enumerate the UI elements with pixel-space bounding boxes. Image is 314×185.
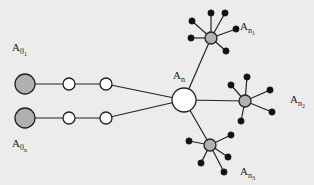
- leaf-node: [244, 74, 250, 80]
- intermediate-node: [63, 78, 75, 90]
- star-center-node: [204, 139, 216, 151]
- network-diagram: [0, 0, 314, 185]
- label-sub-subscript: 3: [252, 175, 255, 181]
- label-sub-subscript: 2: [302, 103, 305, 109]
- label-subscript: n: [181, 75, 185, 84]
- label-base: A: [290, 93, 298, 105]
- intermediate-node: [100, 112, 112, 124]
- label-subscript: 0n: [20, 143, 27, 152]
- source-node: [15, 74, 35, 94]
- label-a0n: A0n: [12, 138, 27, 153]
- label-a01: A01: [12, 42, 27, 57]
- label-base: A: [240, 20, 248, 32]
- label-subscript: 01: [20, 47, 27, 56]
- label-base: A: [240, 165, 248, 177]
- leaf-node: [267, 87, 273, 93]
- leaf-node: [186, 138, 192, 144]
- label-an2: An2: [290, 94, 305, 109]
- leaf-node: [189, 18, 195, 24]
- label-subscript: n2: [298, 99, 305, 108]
- leaf-node: [233, 26, 239, 32]
- leaf-node: [188, 35, 194, 41]
- label-base: A: [12, 41, 20, 53]
- star-center-node: [239, 95, 251, 107]
- label-sub-subscript: 1: [24, 51, 27, 57]
- leaf-node: [225, 154, 231, 160]
- leaf-node: [223, 48, 229, 54]
- leaf-node: [228, 82, 234, 88]
- leaf-node: [222, 10, 228, 16]
- leaf-node: [228, 132, 234, 138]
- intermediate-node: [100, 78, 112, 90]
- hub-node: [172, 88, 196, 112]
- star-center-node: [205, 32, 217, 44]
- leaf-node: [269, 109, 275, 115]
- leaf-node: [198, 160, 204, 166]
- label-subscript: n3: [248, 171, 255, 180]
- label-an1: An1: [240, 21, 255, 36]
- intermediate-node: [63, 112, 75, 124]
- label-sub-subscript: n: [24, 147, 27, 153]
- label-base: A: [12, 137, 20, 149]
- label-an3: An3: [240, 166, 255, 181]
- label-sub-subscript: 1: [252, 30, 255, 36]
- label-an: An: [173, 70, 185, 84]
- source-node: [15, 108, 35, 128]
- leaf-node: [208, 10, 214, 16]
- label-subscript: n1: [248, 26, 255, 35]
- leaf-node: [238, 118, 244, 124]
- edges: [25, 13, 272, 172]
- label-base: A: [173, 69, 181, 81]
- leaf-node: [221, 169, 227, 175]
